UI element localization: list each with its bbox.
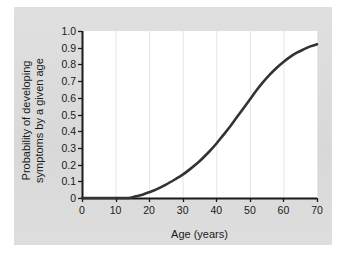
plot-canvas-background xyxy=(82,31,317,198)
figure-root: Probability of developing symptoms by a … xyxy=(0,0,350,262)
chart-plot-area xyxy=(0,0,350,262)
